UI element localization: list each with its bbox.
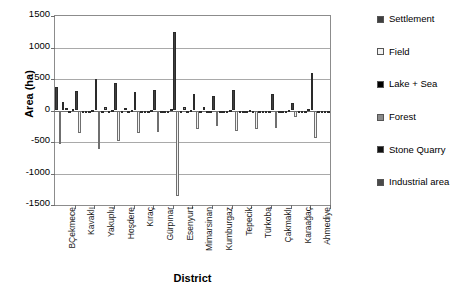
legend-item-label: Stone Quarry [389, 145, 446, 155]
bar[interactable] [117, 111, 120, 142]
bar[interactable] [317, 111, 320, 113]
bar[interactable] [212, 96, 215, 110]
bar[interactable] [62, 102, 65, 110]
x-tick-label: Kumburgaz [225, 207, 234, 250]
bar[interactable] [301, 111, 304, 113]
legend-item[interactable]: Settlement [377, 14, 434, 24]
bar[interactable] [144, 111, 147, 114]
bar[interactable] [285, 111, 288, 113]
bar[interactable] [167, 111, 170, 113]
x-tick-label: Kıraç [146, 207, 155, 227]
x-tick-label: Ahmediye [323, 207, 332, 245]
bar[interactable] [193, 94, 196, 110]
bar[interactable] [78, 111, 81, 133]
bar[interactable] [98, 111, 101, 149]
bar[interactable] [321, 111, 324, 113]
bar[interactable] [114, 83, 117, 111]
bar[interactable] [176, 111, 179, 196]
x-tick-label: BÇekmece [68, 207, 77, 249]
x-tick-label: Yakuplu [107, 207, 116, 237]
bar[interactable] [85, 111, 88, 113]
bar[interactable] [222, 111, 225, 113]
bar[interactable] [262, 111, 265, 113]
x-tick-label: Tepecik [245, 207, 254, 236]
bar[interactable] [271, 94, 274, 111]
bar[interactable] [298, 111, 301, 113]
legend-item[interactable]: Stone Quarry [377, 145, 446, 155]
bar[interactable] [203, 107, 206, 111]
y-tick-label: 500 [14, 72, 50, 81]
bar[interactable] [239, 111, 242, 113]
bar-group [232, 16, 252, 205]
bar[interactable] [226, 111, 229, 113]
bar[interactable] [180, 111, 183, 113]
bar-group [212, 16, 232, 205]
bar[interactable] [275, 111, 278, 129]
bar[interactable] [65, 108, 68, 110]
bar[interactable] [160, 111, 163, 113]
bar-group [291, 16, 311, 205]
bar[interactable] [245, 111, 248, 113]
bar[interactable] [199, 111, 202, 113]
bar[interactable] [137, 111, 140, 133]
legend-swatch-icon [377, 48, 384, 55]
bar[interactable] [124, 108, 127, 111]
legend-item[interactable]: Forest [377, 112, 416, 122]
bar[interactable] [55, 87, 58, 110]
bar[interactable] [101, 111, 104, 113]
bar[interactable] [108, 111, 111, 113]
bar[interactable] [232, 90, 235, 111]
x-tick-label: Hoşdere [127, 207, 136, 239]
bar[interactable] [196, 111, 199, 129]
bar[interactable] [82, 111, 85, 113]
legend-item[interactable]: Lake + Sea [377, 79, 437, 89]
bar[interactable] [121, 111, 124, 113]
bar[interactable] [314, 111, 317, 139]
bar[interactable] [252, 111, 255, 113]
bar[interactable] [59, 111, 62, 144]
bar[interactable] [281, 111, 284, 113]
legend-item[interactable]: Field [377, 47, 410, 57]
bar[interactable] [219, 111, 222, 113]
bar[interactable] [294, 111, 297, 118]
bar[interactable] [140, 111, 143, 113]
bar[interactable] [163, 111, 166, 113]
bar-group [94, 16, 114, 205]
bar[interactable] [68, 111, 71, 113]
bar[interactable] [104, 107, 107, 110]
bar[interactable] [206, 111, 209, 113]
bar[interactable] [324, 111, 327, 113]
bar-group [271, 16, 291, 205]
bar-group [310, 16, 330, 205]
bar[interactable] [291, 103, 294, 111]
bar-group [114, 16, 134, 205]
x-tick-label: Kavaklı [87, 207, 96, 235]
legend-swatch-icon [377, 146, 384, 153]
bar[interactable] [173, 32, 176, 110]
bar[interactable] [311, 73, 314, 111]
x-axis-tick-labels: BÇekmeceKavaklıYakupluHoşdereKıraçGürpın… [54, 207, 331, 265]
legend-item[interactable]: Industrial area [377, 177, 449, 187]
bar[interactable] [255, 111, 258, 130]
bar[interactable] [327, 111, 330, 113]
bar[interactable] [304, 111, 307, 113]
legend-item-label: Field [389, 47, 410, 57]
bar[interactable] [134, 92, 137, 111]
bar[interactable] [183, 107, 186, 110]
bar[interactable] [75, 91, 78, 111]
bar[interactable] [216, 111, 219, 126]
bar[interactable] [258, 111, 261, 113]
bar[interactable] [147, 111, 150, 113]
bar[interactable] [265, 111, 268, 113]
bar[interactable] [186, 111, 189, 113]
y-tick-label: -500 [14, 135, 50, 144]
bar[interactable] [157, 111, 160, 132]
bar[interactable] [242, 111, 245, 113]
bar[interactable] [235, 111, 238, 132]
bar[interactable] [95, 79, 98, 111]
bar[interactable] [88, 111, 91, 113]
bar[interactable] [278, 111, 281, 113]
bar[interactable] [127, 111, 130, 113]
bar[interactable] [153, 90, 156, 110]
legend-swatch-icon [377, 179, 384, 186]
